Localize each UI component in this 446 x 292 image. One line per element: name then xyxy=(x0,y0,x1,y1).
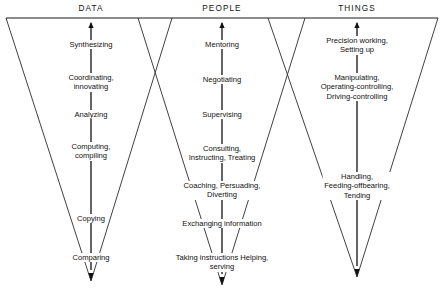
worker-functions-diagram: DATAPEOPLETHINGS SynthesizingCoordinatin… xyxy=(0,0,446,292)
function-label-people-4: Coaching, Persuading, Diverting xyxy=(182,181,262,200)
cone-right-edge-things xyxy=(357,18,438,277)
function-label-people-1: Negotiating xyxy=(201,75,242,84)
function-label-data-2: Analyzing xyxy=(73,110,109,119)
function-label-people-2: Supervising xyxy=(201,110,244,119)
cone-left-edge-things xyxy=(268,18,357,277)
function-label-data-3: Computing, compiling xyxy=(70,142,112,161)
up-arrowhead-people xyxy=(219,22,224,28)
down-arrowhead-data xyxy=(88,273,93,281)
function-label-people-3: Consulting, Instructing, Treating xyxy=(187,144,257,163)
function-label-things-1: Manipulating, Operating-controlling, Dri… xyxy=(319,73,395,101)
function-label-people-6: Taking instructions Helping, serving xyxy=(174,253,269,272)
column-header-things: THINGS xyxy=(338,4,376,13)
function-label-things-2: Handling, Feeding-offbearing, Tending xyxy=(323,172,392,200)
column-header-data: DATA xyxy=(78,4,103,13)
function-label-people-0: Mentoring xyxy=(204,40,241,49)
up-arrowhead-data xyxy=(88,22,93,28)
column-header-people: PEOPLE xyxy=(202,4,241,13)
down-arrowhead-people xyxy=(219,277,224,285)
function-label-data-0: Synthesizing xyxy=(68,40,114,49)
function-label-things-0: Precision working, Setting up xyxy=(325,36,390,55)
up-arrowhead-things xyxy=(354,22,359,28)
function-label-data-1: Coordinating, innovating xyxy=(67,73,115,92)
function-label-data-5: Comparing xyxy=(71,253,111,262)
function-label-data-4: Copying xyxy=(76,214,107,223)
function-label-people-5: Exchanging information xyxy=(181,219,263,228)
